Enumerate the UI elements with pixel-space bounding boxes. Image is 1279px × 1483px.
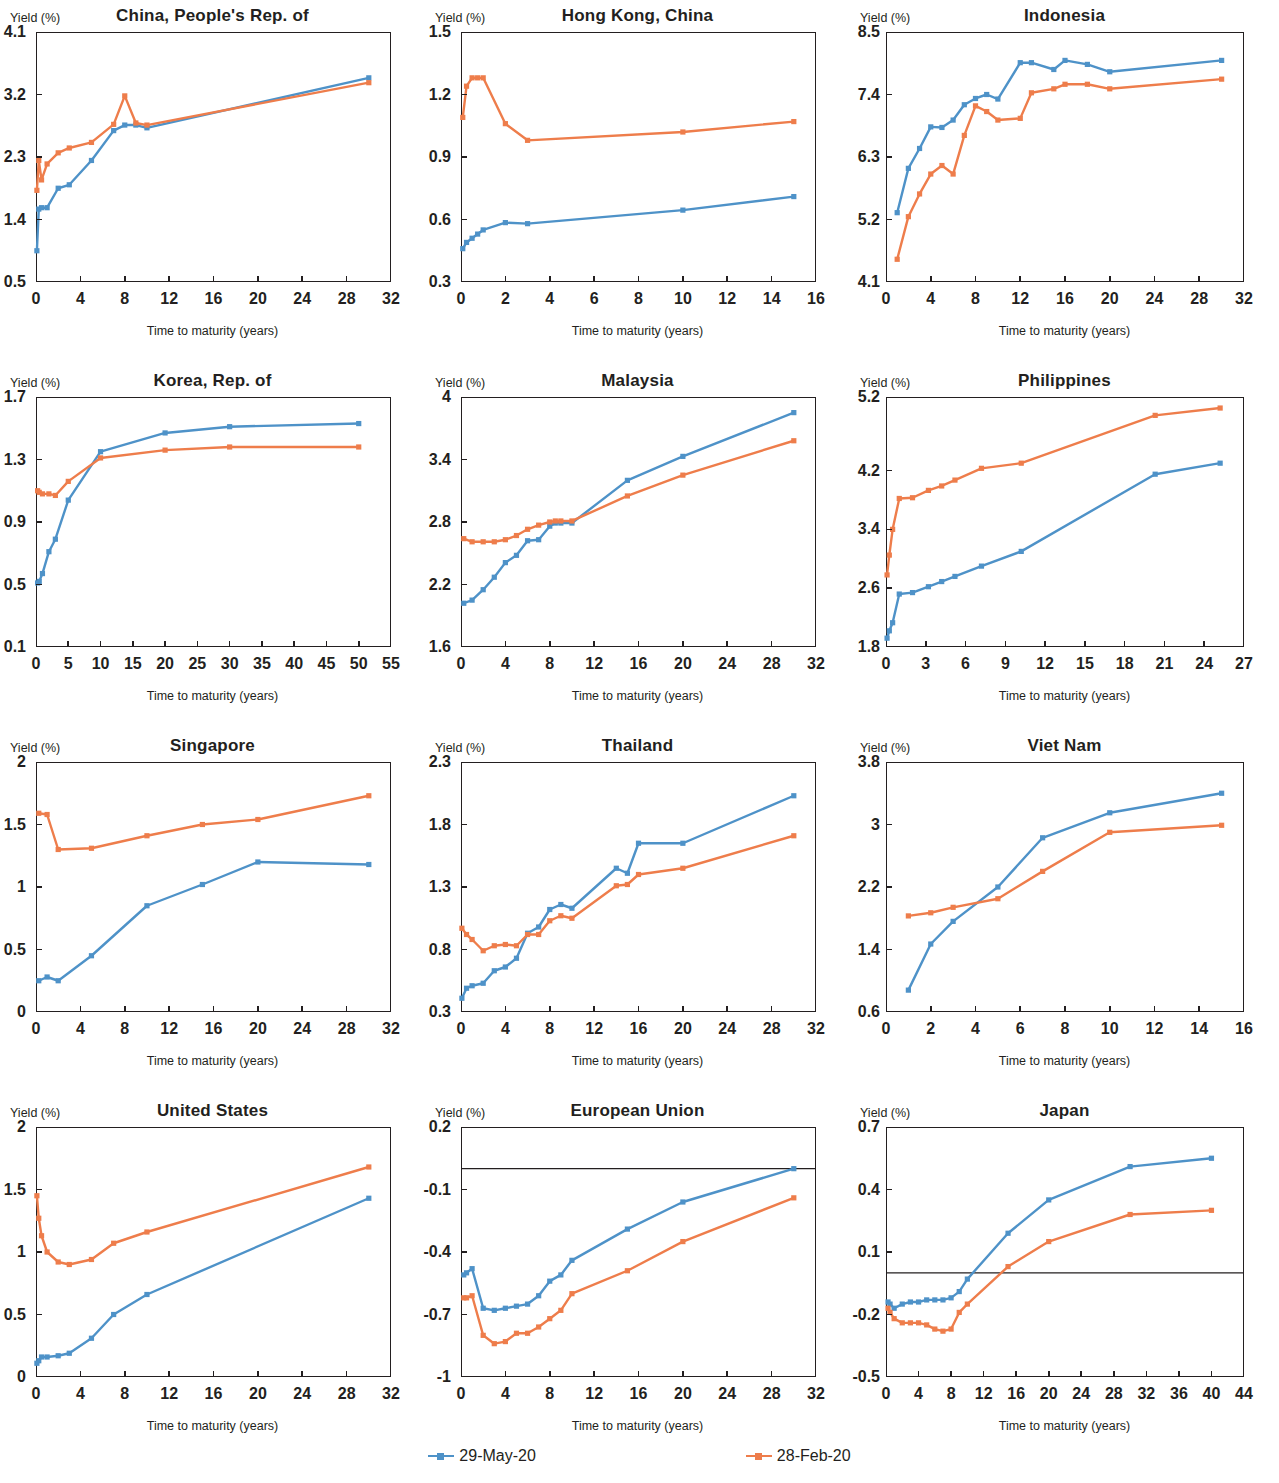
series-marker — [910, 590, 915, 595]
series-marker — [625, 1226, 630, 1231]
series-marker — [536, 924, 541, 929]
x-tick-label: 28 — [1190, 290, 1208, 308]
x-tick-mark — [1198, 1006, 1200, 1012]
legend-29-may-20[interactable]: 29-May-20 — [428, 1447, 535, 1465]
series-layer — [850, 365, 1279, 730]
series-marker — [939, 579, 944, 584]
series-line — [887, 463, 1220, 638]
series-marker — [928, 124, 933, 129]
series-marker — [917, 191, 922, 196]
y-tick-label: 4.2 — [820, 462, 880, 480]
series-marker — [897, 496, 902, 501]
y-tick-label: 2.3 — [0, 148, 26, 166]
x-tick-label: 0 — [32, 655, 41, 673]
series-marker — [525, 221, 530, 226]
series-marker — [1219, 77, 1224, 82]
y-tick-label: 2.6 — [820, 579, 880, 597]
x-tick-label: 32 — [382, 1385, 400, 1403]
y-tick-mark — [36, 886, 42, 888]
series-marker — [461, 601, 466, 606]
series-marker — [951, 117, 956, 122]
series-marker — [162, 430, 167, 435]
chart-panel: SingaporeYield (%)00.511.520481216202428… — [0, 730, 425, 1095]
series-marker — [56, 186, 61, 191]
x-tick-label: 16 — [1007, 1385, 1025, 1403]
series-layer — [425, 365, 854, 730]
series-marker — [1127, 1164, 1132, 1169]
y-tick-mark — [36, 459, 42, 461]
x-tick-mark — [505, 1006, 507, 1012]
y-tick-mark — [461, 886, 467, 888]
series-marker — [111, 122, 116, 127]
series-marker — [1218, 405, 1223, 410]
series-marker — [791, 194, 796, 199]
x-tick-label: 4 — [501, 655, 510, 673]
x-tick-mark — [301, 1006, 303, 1012]
series-marker — [503, 537, 508, 542]
x-tick-mark — [1019, 1006, 1021, 1012]
x-tick-mark — [505, 276, 507, 282]
y-tick-mark — [461, 1314, 467, 1316]
series-marker — [464, 1270, 469, 1275]
series-marker — [111, 1312, 116, 1317]
series-layer — [0, 730, 429, 1095]
series-marker — [553, 518, 558, 523]
series-marker — [366, 75, 371, 80]
x-tick-label: 4 — [914, 1385, 923, 1403]
x-tick-label: 20 — [1101, 290, 1119, 308]
x-tick-label: 21 — [1156, 655, 1174, 673]
x-tick-mark — [1048, 1371, 1050, 1377]
series-marker — [1019, 461, 1024, 466]
x-axis-label: Time to maturity (years) — [425, 324, 850, 338]
series-marker — [122, 122, 127, 127]
y-tick-mark — [36, 219, 42, 221]
series-marker — [1085, 62, 1090, 67]
y-tick-mark — [886, 1314, 892, 1316]
series-marker — [939, 483, 944, 488]
chart-panel: PhilippinesYield (%)1.82.63.44.25.203691… — [850, 365, 1279, 730]
x-tick-label: 8 — [120, 1020, 129, 1038]
series-marker — [492, 539, 497, 544]
series-marker — [1018, 60, 1023, 65]
x-axis-label: Time to maturity (years) — [425, 1419, 850, 1433]
series-line — [38, 447, 359, 495]
x-tick-mark — [771, 641, 773, 647]
x-tick-label: 8 — [120, 1385, 129, 1403]
x-tick-label: 10 — [92, 655, 110, 673]
x-tick-mark — [593, 1006, 595, 1012]
legend-28-feb-20[interactable]: 28-Feb-20 — [746, 1447, 851, 1465]
series-marker — [1062, 58, 1067, 63]
series-marker — [44, 1354, 49, 1359]
series-marker — [56, 978, 61, 983]
series-marker — [984, 92, 989, 97]
x-tick-label: 32 — [807, 655, 825, 673]
x-tick-mark — [638, 641, 640, 647]
series-marker — [66, 479, 71, 484]
x-tick-label: 8 — [1061, 1020, 1070, 1038]
series-marker — [1051, 67, 1056, 72]
x-tick-mark — [1178, 1371, 1180, 1377]
y-tick-label: 1.5 — [391, 23, 451, 41]
series-marker — [44, 1249, 49, 1254]
series-marker — [916, 1320, 921, 1325]
y-tick-label: 0.5 — [0, 576, 26, 594]
series-marker — [459, 996, 464, 1001]
x-tick-label: 10 — [674, 290, 692, 308]
series-line — [39, 862, 369, 981]
series-marker — [680, 129, 685, 134]
x-tick-label: 0 — [882, 1020, 891, 1038]
x-tick-mark — [213, 1371, 215, 1377]
series-marker — [900, 1301, 905, 1306]
y-tick-label: 0.6 — [391, 211, 451, 229]
y-tick-label: 0.3 — [391, 273, 451, 291]
x-tick-mark — [80, 1006, 82, 1012]
series-marker — [481, 1333, 486, 1338]
x-axis-label: Time to maturity (years) — [0, 1054, 425, 1068]
y-tick-mark — [36, 584, 42, 586]
series-marker — [1005, 1264, 1010, 1269]
x-axis-label: Time to maturity (years) — [850, 324, 1279, 338]
series-marker — [56, 847, 61, 852]
y-tick-label: 1.7 — [0, 388, 26, 406]
x-tick-mark — [549, 641, 551, 647]
x-tick-label: 0 — [882, 290, 891, 308]
